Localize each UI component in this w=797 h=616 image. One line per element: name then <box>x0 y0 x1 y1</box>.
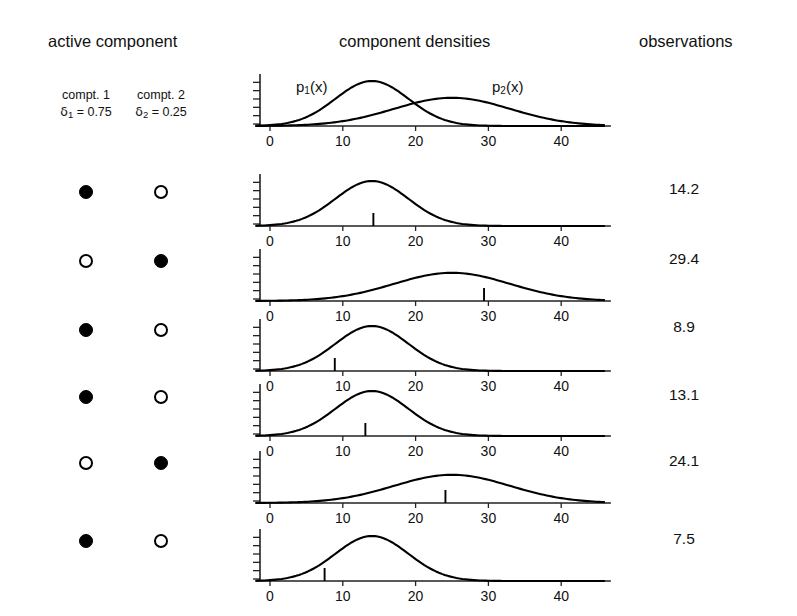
legend-component-2-name: compt. 2 <box>120 88 202 102</box>
component-indicator-1 <box>79 185 93 199</box>
x-axis-tick-label: 40 <box>553 588 569 604</box>
component-indicator-1 <box>79 323 93 337</box>
curve-label-p1: p1(x) <box>296 78 327 95</box>
component-indicator-2 <box>154 254 168 268</box>
panel-row-2: 010203040 <box>258 241 618 315</box>
observation-value: 8.9 <box>639 318 729 336</box>
density-curve-p1 <box>255 181 604 226</box>
component-indicator-2 <box>154 323 168 337</box>
component-indicator-2 <box>154 534 168 548</box>
observation-value: 7.5 <box>639 530 729 548</box>
component-indicator-2 <box>154 456 168 470</box>
header-active-component: active component <box>48 32 177 51</box>
density-curve-p2 <box>255 273 604 301</box>
density-curve-p1 <box>255 326 604 371</box>
density-curve-p1 <box>255 536 604 581</box>
component-indicator-1 <box>79 456 93 470</box>
x-axis-tick-label: 40 <box>553 133 569 149</box>
legend-component-1-name: compt. 1 <box>45 88 127 102</box>
mixture-model-figure: active component component densities obs… <box>0 0 797 616</box>
header-observations: observations <box>639 32 733 51</box>
curve-label-p2: p2(x) <box>492 78 523 95</box>
panel-row-5: 010203040 <box>258 443 618 517</box>
panel-row-4: 010203040 <box>258 376 618 450</box>
density-curve-p2 <box>255 98 604 126</box>
component-indicator-2 <box>154 185 168 199</box>
component-indicator-1 <box>79 390 93 404</box>
x-axis-tick-label: 20 <box>408 133 424 149</box>
x-axis-tick-label: 10 <box>335 588 351 604</box>
panel-row-6: 010203040 <box>258 521 618 595</box>
density-plot: 010203040 <box>258 376 618 450</box>
density-plot: 010203040 <box>258 311 618 385</box>
observation-value: 29.4 <box>639 250 729 268</box>
x-axis-tick-label: 0 <box>266 133 274 149</box>
panel-row-3: 010203040 <box>258 311 618 385</box>
header-component-densities: component densities <box>339 32 490 51</box>
panel-row-1: 010203040 <box>258 166 618 240</box>
density-plot: 010203040 <box>258 241 618 315</box>
density-curve-p1 <box>255 391 604 436</box>
density-plot: 010203040 <box>258 166 618 240</box>
component-indicator-1 <box>79 534 93 548</box>
density-plot: 010203040 <box>258 443 618 517</box>
observation-value: 14.2 <box>639 180 729 198</box>
x-axis-tick-label: 20 <box>408 588 424 604</box>
observation-value: 24.1 <box>639 452 729 470</box>
density-curve-p2 <box>255 475 604 503</box>
x-axis-tick-label: 0 <box>266 588 274 604</box>
legend-component-1-weight: δ1 = 0.75 <box>45 104 127 119</box>
observation-value: 13.1 <box>639 386 729 404</box>
component-indicator-2 <box>154 390 168 404</box>
x-axis-tick-label: 30 <box>481 588 497 604</box>
legend-component-2-weight: δ2 = 0.25 <box>120 104 202 119</box>
component-indicator-1 <box>79 254 93 268</box>
x-axis-tick-label: 30 <box>481 133 497 149</box>
density-plot: 010203040 <box>258 521 618 595</box>
x-axis-tick-label: 10 <box>335 133 351 149</box>
